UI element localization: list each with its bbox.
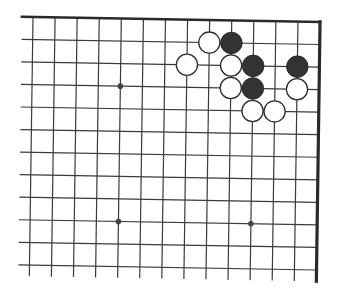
black-stone-icon: [221, 32, 243, 54]
white-stone-icon: [264, 101, 285, 122]
white-stone-icon: [176, 54, 197, 75]
grid-line-vertical: [206, 20, 210, 279]
white-stone-icon: [286, 79, 307, 100]
star-point-icon: [248, 221, 254, 227]
star-point-icon: [116, 219, 122, 225]
grid-line-vertical: [51, 17, 55, 276]
black-stone-icon: [242, 55, 264, 77]
grid-line-vertical: [73, 18, 77, 277]
grid-line-vertical: [272, 21, 276, 280]
grid-line-vertical: [29, 17, 33, 276]
grid-line-vertical: [140, 19, 144, 278]
board-edge-right: [316, 22, 320, 281]
grid-line-vertical: [118, 19, 122, 278]
grid-line-vertical: [96, 18, 100, 277]
white-stone-icon: [199, 32, 220, 53]
black-stone-icon: [242, 78, 264, 100]
grid-line-vertical: [162, 19, 166, 278]
white-stone-icon: [220, 55, 241, 76]
white-stone-icon: [242, 100, 263, 121]
go-board-diagram: [0, 0, 337, 299]
board-edge-top: [22, 17, 320, 22]
stones: [176, 32, 308, 122]
white-stone-icon: [220, 77, 241, 98]
grid-lines: [18, 17, 319, 281]
go-board: [0, 0, 337, 299]
star-point-icon: [118, 83, 124, 89]
black-stone-icon: [287, 56, 309, 78]
